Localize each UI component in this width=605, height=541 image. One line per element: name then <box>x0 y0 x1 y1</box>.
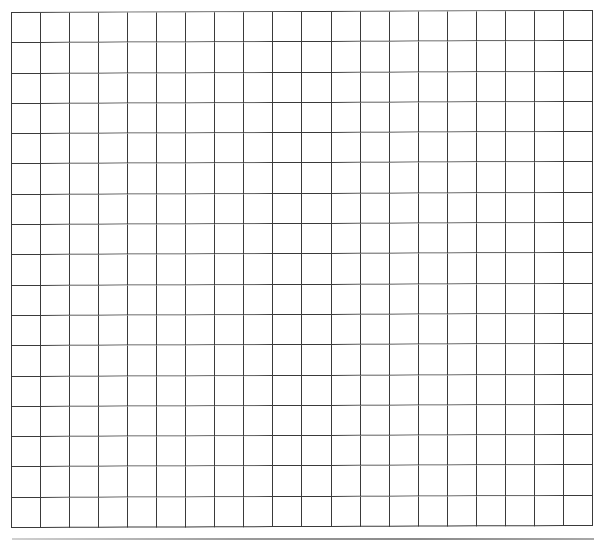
grid-cell <box>12 164 41 194</box>
grid-cell <box>70 194 99 224</box>
grid-cell <box>535 193 564 223</box>
grid-cell <box>128 497 157 527</box>
grid-cell <box>244 376 273 406</box>
grid-cell <box>419 224 448 254</box>
grid-cell <box>157 194 186 224</box>
grid-cell <box>186 12 215 42</box>
grid-cell <box>215 164 244 194</box>
grid-cell <box>273 436 302 466</box>
grid-cell <box>564 223 593 253</box>
grid-cell <box>157 164 186 194</box>
grid-cell <box>186 164 215 194</box>
grid-cell <box>41 225 70 255</box>
grid-cell <box>99 194 128 224</box>
grid-cell <box>332 12 361 42</box>
grid-cell <box>302 72 331 102</box>
grid-cell <box>361 163 390 193</box>
grid-cell <box>448 496 477 526</box>
grid-cell <box>564 405 593 435</box>
grid-cell <box>506 163 535 193</box>
grid-cell <box>302 133 331 163</box>
grid-cell <box>302 436 331 466</box>
grid-cell <box>361 315 390 345</box>
grid-cell <box>215 12 244 42</box>
grid-cell <box>419 254 448 284</box>
grid-cell <box>477 405 506 435</box>
grid-cell <box>41 164 70 194</box>
grid-cell <box>302 315 331 345</box>
grid-cell <box>244 42 273 72</box>
grid-cell <box>128 315 157 345</box>
grid-cell <box>273 406 302 436</box>
grid-cell <box>302 375 331 405</box>
grid-cell <box>506 41 535 71</box>
grid-cell <box>390 193 419 223</box>
grid-cell <box>41 195 70 225</box>
grid-cell <box>70 255 99 285</box>
grid-cell <box>390 133 419 163</box>
grid-cell <box>361 42 390 72</box>
grid-cell <box>361 345 390 375</box>
grid-cell <box>186 194 215 224</box>
grid-cell <box>506 254 535 284</box>
grid-cell <box>273 133 302 163</box>
grid-cell <box>128 225 157 255</box>
grid-cell <box>273 254 302 284</box>
grid-cell <box>70 285 99 315</box>
grid-cell <box>186 224 215 254</box>
grid-cell <box>41 285 70 315</box>
grid-cell <box>332 466 361 496</box>
grid-cell <box>419 11 448 41</box>
grid-cell <box>506 466 535 496</box>
grid-cell <box>448 163 477 193</box>
grid-cell <box>215 436 244 466</box>
grid-cell <box>157 406 186 436</box>
grid-cell <box>361 193 390 223</box>
grid-cell <box>419 42 448 72</box>
grid-cell <box>244 73 273 103</box>
grid-cell <box>332 254 361 284</box>
grid-cell <box>419 163 448 193</box>
grid-cell <box>12 346 41 376</box>
grid-cell <box>332 406 361 436</box>
grid-cell <box>302 285 331 315</box>
grid-cell <box>390 163 419 193</box>
grid-cell <box>273 194 302 224</box>
grid-cell <box>186 73 215 103</box>
grid-cell <box>273 163 302 193</box>
grid-cell <box>535 284 564 314</box>
grid-cell <box>477 254 506 284</box>
grid-cell <box>448 435 477 465</box>
grid-cell <box>244 194 273 224</box>
grid-cell <box>535 375 564 405</box>
grid-cell <box>390 405 419 435</box>
grid-cell <box>99 316 128 346</box>
grid-cell <box>448 223 477 253</box>
grid-cell <box>448 11 477 41</box>
grid-cell <box>535 435 564 465</box>
grid-cell <box>99 467 128 497</box>
grid-cell <box>390 315 419 345</box>
grid-cell <box>273 73 302 103</box>
grid-cell <box>244 436 273 466</box>
grid-cell <box>12 43 41 73</box>
grid-cell <box>244 133 273 163</box>
grid-cell <box>448 375 477 405</box>
grid-cell <box>448 345 477 375</box>
grid-cell <box>302 254 331 284</box>
grid-cell <box>564 435 593 465</box>
grid-cell <box>361 466 390 496</box>
grid-cell <box>186 346 215 376</box>
grid-cell <box>390 284 419 314</box>
grid-cell <box>12 134 41 164</box>
grid-cell <box>12 13 41 43</box>
grid-cell <box>99 225 128 255</box>
grid-cell <box>361 375 390 405</box>
grid-cell <box>12 437 41 467</box>
grid-cell <box>506 375 535 405</box>
grid-cell <box>12 195 41 225</box>
grid-cell <box>564 193 593 223</box>
grid-cell <box>564 41 593 71</box>
grid-cell <box>361 103 390 133</box>
grid-cell <box>302 497 331 527</box>
